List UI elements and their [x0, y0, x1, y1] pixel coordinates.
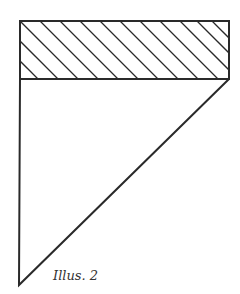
rectangle-outline: [20, 21, 229, 79]
illustration-diagram: [0, 0, 240, 294]
figure-caption: Illus. 2: [53, 268, 98, 283]
hatched-rectangle: [0, 21, 240, 79]
hatch-lines: [0, 21, 240, 79]
triangle-outline: [19, 79, 229, 285]
